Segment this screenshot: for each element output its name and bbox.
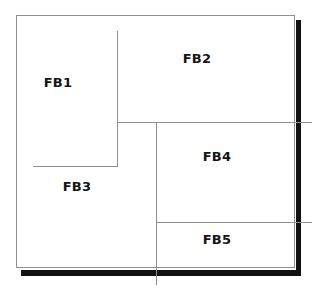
plate-shadow-right [296, 20, 301, 276]
region-label-fb2: FB2 [183, 51, 211, 66]
divider-fb2-bottom-horizontal [117, 122, 312, 123]
diagram-canvas: FB1 FB2 FB3 FB4 FB5 [0, 0, 314, 291]
plate-shadow-bottom [21, 270, 301, 276]
region-label-fb3: FB3 [63, 179, 91, 194]
layout-plate [16, 15, 295, 268]
region-label-fb4: FB4 [203, 149, 231, 164]
divider-fb3-fb4-vertical [156, 122, 157, 285]
region-label-fb5: FB5 [203, 232, 231, 247]
divider-fb4-fb5-horizontal [156, 222, 312, 223]
region-label-fb1: FB1 [44, 75, 72, 90]
divider-fb1-fb2-vertical [117, 31, 118, 167]
divider-fb1-bottom-horizontal [33, 166, 118, 167]
